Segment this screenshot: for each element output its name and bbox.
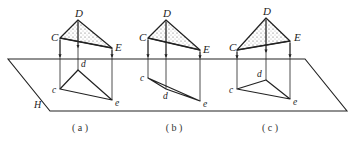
label-space-e: E [114, 41, 122, 53]
label-space-d: D [262, 5, 271, 17]
diagram-canvas: H CDEcde( a )CDEcde( b )CDEcde( c ) [0, 0, 353, 142]
label-space-e: E [202, 43, 210, 55]
label-proj-e: e [293, 97, 297, 107]
caption-c: ( c ) [262, 122, 278, 134]
figures-group: CDEcde( a )CDEcde( b )CDEcde( c ) [51, 5, 301, 134]
label-proj-c: c [140, 73, 145, 83]
label-proj-c: c [52, 85, 57, 95]
label-space-c: C [139, 31, 147, 43]
projected-triangle-cde [60, 70, 112, 100]
label-proj-d: d [163, 91, 168, 101]
label-proj-e: e [115, 98, 119, 108]
label-proj-e: e [203, 99, 207, 109]
projection-diagram: H CDEcde( a )CDEcde( b )CDEcde( c ) [0, 0, 353, 142]
plane-label: H [33, 99, 42, 110]
label-space-e: E [293, 31, 301, 43]
label-space-c: C [51, 31, 59, 43]
label-space-c: C [229, 41, 237, 53]
caption-b: ( b ) [166, 122, 183, 134]
figure-c: CDEcde( c ) [229, 5, 301, 134]
space-triangle-cde [148, 20, 200, 50]
projected-triangle-cde [237, 80, 290, 99]
label-space-d: D [74, 7, 83, 19]
caption-a: ( a ) [72, 122, 88, 134]
projected-triangle-cde [148, 78, 200, 101]
figure-b: CDEcde( b ) [139, 7, 210, 134]
figure-a: CDEcde( a ) [51, 7, 122, 134]
label-proj-c: c [229, 85, 234, 95]
label-proj-d: d [81, 59, 86, 69]
label-proj-d: d [257, 69, 262, 79]
label-space-d: D [162, 7, 171, 19]
